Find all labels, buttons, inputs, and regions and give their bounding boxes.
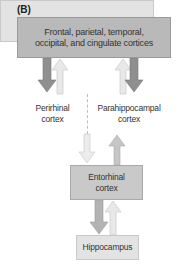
arrow-perirhinal-to-entorhinal bbox=[79, 134, 95, 163]
arrow-top-to-perirhinal bbox=[38, 58, 56, 92]
panel-label: (B) bbox=[17, 4, 31, 15]
arrow-hippocampus-to-entorhinal bbox=[105, 201, 121, 235]
node-label-line: Parahippocampal bbox=[97, 103, 160, 114]
node-hippocampus: Hippocampus bbox=[76, 235, 139, 260]
node-label-line: Frontal, parietal, temporal, bbox=[35, 27, 153, 38]
node-perirhinal-cortex: Perirhinal cortex bbox=[18, 94, 87, 134]
arrow-top-to-parahippocampal bbox=[125, 58, 143, 92]
node-entorhinal-cortex: Entorhinal cortex bbox=[70, 165, 143, 200]
node-label-line: Entorhinal bbox=[88, 172, 124, 183]
node-label-line: Perirhinal bbox=[36, 103, 70, 114]
node-label-line: cortex bbox=[88, 183, 124, 194]
arrow-perirhinal-to-top bbox=[52, 59, 68, 94]
node-association-cortices: Frontal, parietal, temporal, occipital, … bbox=[17, 17, 171, 58]
arrow-entorhinal-to-parahippocampal bbox=[109, 135, 125, 165]
arrow-entorhinal-to-hippocampus bbox=[90, 200, 108, 234]
node-label-line: Hippocampus bbox=[83, 242, 133, 253]
arrow-parahippocampal-to-top bbox=[115, 59, 131, 94]
node-label-line: cortex bbox=[97, 114, 160, 125]
node-label-line: occipital, and cingulate cortices bbox=[35, 38, 153, 49]
node-parahippocampal-cortex: Parahippocampal cortex bbox=[88, 94, 170, 134]
node-label-line: cortex bbox=[36, 114, 70, 125]
